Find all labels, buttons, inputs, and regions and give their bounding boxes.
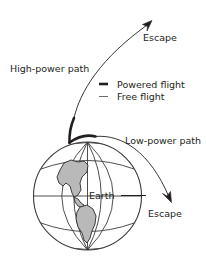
escape-trajectory-diagram: Earth High-power path Low-power path Esc… — [0, 0, 206, 258]
high-power-path-label: High-power path — [10, 63, 89, 74]
legend-label-powered-flight: Powered flight — [117, 79, 185, 90]
diagram-canvas: Earth High-power path Low-power path Esc… — [0, 0, 206, 258]
escape-label-top: Escape — [143, 32, 177, 43]
low-power-path-label: Low-power path — [125, 135, 201, 146]
escape-label-bottom: Escape — [148, 208, 182, 219]
earth-label: Earth — [89, 190, 114, 201]
legend-label-free-flight: Free flight — [117, 91, 165, 102]
